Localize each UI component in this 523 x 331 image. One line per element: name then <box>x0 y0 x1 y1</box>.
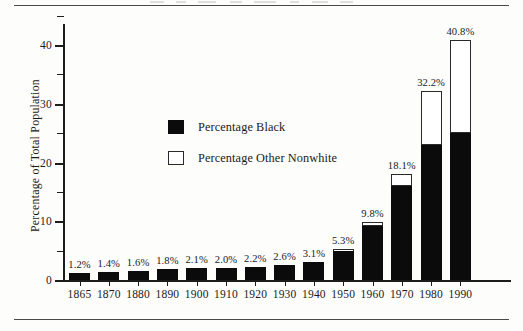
x-axis-tick <box>138 281 139 286</box>
bar-1940 <box>303 262 324 280</box>
x-axis-tick <box>197 281 198 286</box>
bar-1980 <box>421 91 442 280</box>
x-axis-tick <box>255 281 256 286</box>
y-axis-tick-label: 0 <box>26 275 52 286</box>
legend-item-black: Percentage Black <box>168 120 285 134</box>
bar-segment-black <box>450 133 471 280</box>
bar-1930 <box>274 265 295 280</box>
bar-segment-black <box>333 251 354 280</box>
bar-segment-black <box>274 265 295 280</box>
bar-segment-other-nonwhite <box>421 91 442 145</box>
bar-1865 <box>69 273 90 280</box>
bar-segment-black <box>216 268 237 280</box>
x-axis-tick <box>431 281 432 286</box>
bar-1910 <box>216 268 237 280</box>
bar-value-label-1970: 18.1% <box>379 160 425 171</box>
x-axis-tick <box>460 281 461 286</box>
x-axis-tick <box>402 281 403 286</box>
x-axis-tick <box>109 281 110 286</box>
legend-label-black: Percentage Black <box>198 121 285 134</box>
y-axis-tick-label: 20 <box>26 158 52 169</box>
y-axis-line <box>63 24 65 281</box>
bar-1950 <box>333 249 354 280</box>
y-axis-tick-label: 10 <box>26 216 52 227</box>
bar-1900 <box>186 268 207 280</box>
x-axis-tick-label-1990: 1990 <box>440 288 480 300</box>
x-axis-tick <box>314 281 315 286</box>
bar-segment-black <box>157 269 178 280</box>
y-axis-major-tick <box>55 163 64 165</box>
legend-item-other-nonwhite: Percentage Other Nonwhite <box>168 151 337 165</box>
y-axis-tick-label: 40 <box>26 40 52 51</box>
bar-segment-other-nonwhite <box>450 40 471 133</box>
legend-swatch-filled-square-icon <box>168 120 184 134</box>
x-axis-line <box>63 280 511 282</box>
y-axis-tick-label: 30 <box>26 99 52 110</box>
bar-1880 <box>128 271 149 280</box>
bar-segment-black <box>362 226 383 280</box>
y-axis-minor-tick <box>57 74 64 75</box>
legend-label-other-nonwhite: Percentage Other Nonwhite <box>198 152 337 165</box>
x-axis-tick <box>373 281 374 286</box>
y-axis-minor-tick <box>57 251 64 252</box>
bar-1890 <box>157 269 178 280</box>
bar-1990 <box>450 40 471 280</box>
x-axis-tick <box>167 281 168 286</box>
x-axis-tick <box>80 281 81 286</box>
stacked-bar-chart: Percentage of Total Population 010203040… <box>0 0 523 331</box>
y-axis-title: Percentage of Total Population <box>28 38 43 273</box>
bar-1960 <box>362 222 383 280</box>
y-axis-major-tick <box>55 280 64 282</box>
y-axis-minor-tick <box>57 192 64 193</box>
bar-1870 <box>98 272 119 280</box>
bar-segment-black <box>303 262 324 280</box>
bar-value-label-1990: 40.8% <box>437 26 483 37</box>
y-axis-minor-tick <box>57 133 64 134</box>
y-axis-minor-tick <box>57 16 64 17</box>
bar-value-label-1950: 5.3% <box>320 235 366 246</box>
bar-segment-black <box>421 145 442 280</box>
bar-segment-black <box>186 268 207 280</box>
legend-swatch-hollow-square-icon <box>168 151 184 165</box>
y-axis-major-tick <box>55 45 64 47</box>
bar-value-label-1980: 32.2% <box>408 77 454 88</box>
bar-segment-black <box>128 271 149 280</box>
bar-segment-black <box>245 267 266 280</box>
bar-1970 <box>391 174 412 280</box>
bar-segment-black <box>98 272 119 280</box>
bar-segment-other-nonwhite <box>391 174 412 186</box>
x-axis-tick <box>285 281 286 286</box>
x-axis-tick <box>343 281 344 286</box>
x-axis-tick <box>226 281 227 286</box>
y-axis-major-tick <box>55 104 64 106</box>
bar-value-label-1940: 3.1% <box>291 248 337 259</box>
bar-segment-black <box>69 273 90 280</box>
y-axis-major-tick <box>55 221 64 223</box>
bar-value-label-1960: 9.8% <box>350 208 396 219</box>
bar-segment-black <box>391 186 412 280</box>
bar-1920 <box>245 267 266 280</box>
